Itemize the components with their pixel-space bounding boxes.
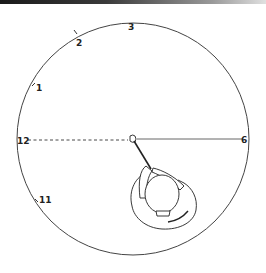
tick-1	[32, 83, 35, 86]
golfer-figure	[131, 166, 196, 229]
clock-label-11: 11	[39, 195, 52, 205]
ball-icon	[130, 135, 136, 142]
tick-2	[74, 30, 77, 34]
club-shaft	[134, 141, 151, 169]
clock-label-2: 2	[76, 38, 82, 48]
clock-diagram: 3 2 1 12 6 11	[0, 0, 266, 273]
clock-label-6: 6	[241, 135, 247, 145]
golfer-cap-brim	[156, 211, 170, 216]
clock-label-12: 12	[17, 136, 30, 146]
clock-label-1: 1	[36, 83, 42, 93]
clock-label-3: 3	[128, 22, 134, 32]
golfer-head	[145, 175, 179, 213]
